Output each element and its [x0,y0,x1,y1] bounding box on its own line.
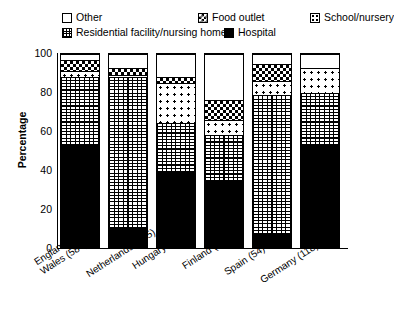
legend-label-other: Other [76,12,102,23]
legend-item-other[interactable]: Other [62,12,102,23]
bar-1 [108,53,148,248]
bar-4 [252,53,292,248]
bar-segment-0-2 [61,71,99,77]
bar-segment-4-4 [253,54,291,64]
bar-segment-5-0 [301,145,339,247]
legend-item-residential[interactable]: Residential facility/nursing home [62,27,227,38]
bar-segment-3-3 [205,100,243,119]
bar-segment-1-2 [109,75,147,77]
bar-5 [300,53,340,248]
legend-label-school: School/nursery [324,12,394,23]
bar-segment-5-4 [301,54,339,68]
bar-0 [60,53,100,248]
y-tick-label: 40 [24,164,52,176]
y-tick-label: 0 [24,242,52,254]
bar-segment-4-2 [253,81,291,95]
legend-item-school[interactable]: School/nursery [310,12,394,23]
bar-segment-0-4 [61,54,99,60]
legend-label-hospital: Hospital [238,27,276,38]
chart-legend: OtherFood outletSchool/nurseryResidentia… [62,10,362,40]
bar-segment-3-0 [205,181,243,247]
bar-segment-4-3 [253,64,291,81]
bar-segment-0-1 [61,77,99,145]
bar-segment-2-4 [157,54,195,77]
legend-swatch-hospital-icon [224,28,234,38]
bar-segment-0-3 [61,60,99,72]
y-tick-label: 80 [24,86,52,98]
legend-swatch-school-icon [310,13,320,23]
bar-segment-2-1 [157,123,195,171]
y-axis-ticks: 020406080100 [24,48,52,253]
bar-segment-3-2 [205,120,243,135]
stacked-bars [57,53,348,248]
y-tick-label: 20 [24,203,52,215]
bar-segment-2-3 [157,77,195,83]
y-tick-label: 100 [24,47,52,59]
bar-2 [156,53,196,248]
bar-segment-2-2 [157,83,195,124]
bar-segment-1-4 [109,54,147,68]
legend-item-food[interactable]: Food outlet [198,12,265,23]
bar-segment-0-0 [61,145,99,247]
bar-segment-5-1 [301,93,339,145]
legend-label-residential: Residential facility/nursing home [76,27,227,38]
legend-row: Residential facility/nursing homeHospita… [62,25,362,40]
bar-segment-4-1 [253,95,291,234]
bar-segment-3-1 [205,135,243,181]
legend-swatch-other-icon [62,13,72,23]
bar-segment-5-2 [301,68,339,93]
bar-segment-1-3 [109,68,147,76]
legend-row: OtherFood outletSchool/nursery [62,10,362,25]
x-axis-line [57,248,348,249]
bar-segment-1-0 [109,228,147,247]
bar-segment-4-0 [253,234,291,248]
legend-swatch-food-icon [198,13,208,23]
bar-3 [204,53,244,248]
legend-label-food: Food outlet [212,12,265,23]
legend-item-hospital[interactable]: Hospital [224,27,276,38]
y-tick-label: 60 [24,125,52,137]
bar-segment-2-0 [157,172,195,247]
bar-segment-3-4 [205,54,243,100]
bar-segment-1-1 [109,77,147,228]
legend-swatch-residential-icon [62,28,72,38]
